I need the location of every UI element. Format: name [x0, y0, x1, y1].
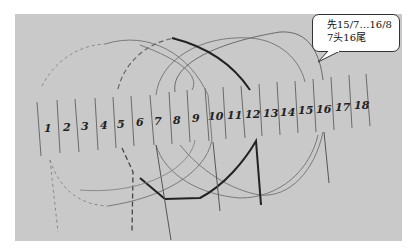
number-17: 17 [335, 101, 351, 114]
number-4: 4 [100, 119, 108, 132]
number-7: 7 [154, 115, 162, 128]
number-1: 1 [44, 122, 52, 135]
number-11: 11 [227, 109, 242, 122]
speech-bubble: 先15/7…16/8 7头16尾 [312, 14, 400, 52]
number-2: 2 [62, 121, 71, 134]
arc-curves [42, 32, 329, 240]
number-15: 15 [298, 104, 313, 117]
callout-line-1: 先15/7…16/8 [327, 18, 399, 31]
number-9: 9 [192, 112, 200, 125]
number-12: 12 [245, 108, 261, 121]
number-8: 8 [173, 114, 181, 127]
number-6: 6 [136, 116, 144, 129]
number-13: 13 [263, 107, 279, 120]
number-5: 5 [117, 118, 125, 131]
number-16: 16 [316, 103, 332, 116]
number-18: 18 [354, 99, 370, 112]
callout-line-2: 7头16尾 [327, 31, 399, 44]
number-3: 3 [81, 120, 89, 133]
number-14: 14 [280, 106, 295, 119]
